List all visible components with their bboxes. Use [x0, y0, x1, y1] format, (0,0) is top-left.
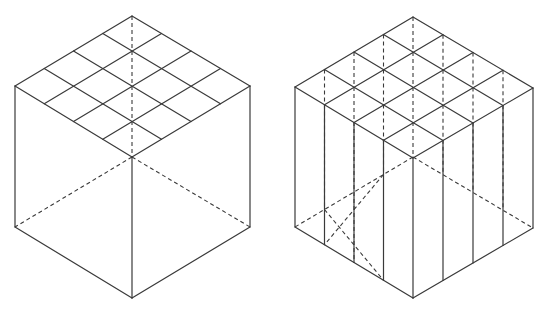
right-cube-sliced-columns — [295, 17, 533, 298]
cube-diagrams — [0, 0, 543, 309]
bottom-edge — [15, 227, 132, 298]
hidden-bottom-edge — [132, 157, 250, 227]
left-cube-grid-top — [15, 16, 250, 298]
bottom-edge — [132, 227, 250, 298]
figure — [0, 0, 543, 309]
hidden-bottom-edge — [15, 157, 132, 227]
